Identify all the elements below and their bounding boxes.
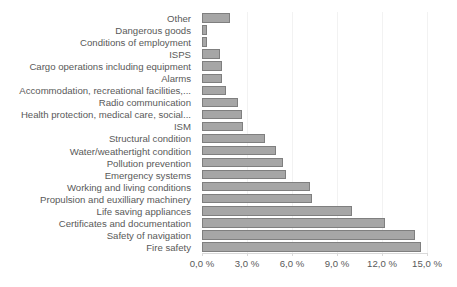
- bar-row: [202, 229, 427, 241]
- bar-row: [202, 24, 427, 36]
- gridline: [427, 12, 428, 253]
- bar-row: [202, 132, 427, 144]
- bar-row: [202, 120, 427, 132]
- bar: [202, 206, 352, 216]
- bar: [202, 242, 421, 252]
- bar: [202, 98, 238, 108]
- bar-row: [202, 181, 427, 193]
- bar-row: [202, 193, 427, 205]
- bar: [202, 218, 385, 228]
- bar: [202, 86, 226, 96]
- category-label: Safety of navigation: [0, 229, 196, 241]
- category-label: Health protection, medical care, social.…: [0, 108, 196, 120]
- bar-chart: OtherDangerous goodsConditions of employ…: [0, 0, 457, 287]
- category-label: ISM: [0, 120, 196, 132]
- bar: [202, 61, 222, 71]
- bar: [202, 170, 286, 180]
- category-label: Propulsion and euxilliary machinery: [0, 193, 196, 205]
- category-label: Fire safety: [0, 241, 196, 253]
- bar: [202, 230, 415, 240]
- bar-row: [202, 48, 427, 60]
- bar-row: [202, 169, 427, 181]
- bar: [202, 134, 265, 144]
- bar: [202, 182, 310, 192]
- bar: [202, 37, 207, 47]
- bar: [202, 110, 242, 120]
- x-tick-label: 15,0 %: [412, 258, 442, 269]
- bar-row: [202, 72, 427, 84]
- bar-row: [202, 84, 427, 96]
- category-label: Radio communication: [0, 96, 196, 108]
- plot-area: [202, 12, 427, 253]
- bar-row: [202, 60, 427, 72]
- x-axis-tick: [202, 253, 203, 256]
- bar-row: [202, 145, 427, 157]
- bar-row: [202, 205, 427, 217]
- x-axis-line: [202, 253, 428, 254]
- category-label: ISPS: [0, 48, 196, 60]
- category-label: Accommodation, recreational facilities,.…: [0, 84, 196, 96]
- bar-row: [202, 108, 427, 120]
- bar: [202, 146, 276, 156]
- x-tick-label: 3,0 %: [235, 258, 260, 269]
- bar-row: [202, 217, 427, 229]
- bar-row: [202, 12, 427, 24]
- x-tick-label: 9,0 %: [325, 258, 350, 269]
- category-label: Cargo operations including equipment: [0, 60, 196, 72]
- x-tick-label: 0,0 %: [190, 258, 215, 269]
- category-label: Alarms: [0, 72, 196, 84]
- bar-row: [202, 157, 427, 169]
- bar: [202, 122, 243, 132]
- x-tick-label: 6,0 %: [280, 258, 305, 269]
- x-tick-label: 12,0 %: [367, 258, 397, 269]
- x-axis-tick: [292, 253, 293, 256]
- bar: [202, 194, 312, 204]
- category-label: Emergency systems: [0, 169, 196, 181]
- category-label: Certificates and documentation: [0, 217, 196, 229]
- x-axis-tick-labels: 0,0 %3,0 %6,0 %9,0 %12,0 %15,0 %: [0, 258, 457, 274]
- bar: [202, 158, 283, 168]
- category-label: Other: [0, 12, 196, 24]
- bar: [202, 49, 220, 59]
- category-label: Water/weathertight condition: [0, 145, 196, 157]
- bar-series: [202, 12, 427, 253]
- category-label: Life saving appliances: [0, 205, 196, 217]
- category-label: Working and living conditions: [0, 181, 196, 193]
- bar-row: [202, 241, 427, 253]
- x-axis-tick: [247, 253, 248, 256]
- x-axis-tick: [337, 253, 338, 256]
- bar-row: [202, 96, 427, 108]
- category-label: Dangerous goods: [0, 24, 196, 36]
- category-label: Pollution prevention: [0, 157, 196, 169]
- category-label: Conditions of employment: [0, 36, 196, 48]
- x-axis-tick: [427, 253, 428, 256]
- bar: [202, 25, 207, 35]
- bar: [202, 74, 222, 84]
- bar: [202, 13, 230, 23]
- bar-row: [202, 36, 427, 48]
- x-axis-tick: [382, 253, 383, 256]
- category-axis-labels: OtherDangerous goodsConditions of employ…: [0, 12, 196, 253]
- category-label: Structural condition: [0, 132, 196, 144]
